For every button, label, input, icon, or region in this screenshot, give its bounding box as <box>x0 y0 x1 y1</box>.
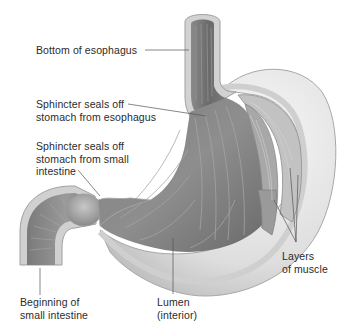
stomach-diagram: Bottom of esophagus Sphincter seals off … <box>0 0 343 325</box>
label-beginning-small-intestine: Beginning of small intestine <box>20 296 88 321</box>
label-lumen: Lumen (interior) <box>157 296 197 321</box>
pyloric-sphincter <box>66 194 102 226</box>
label-sphincter-small-intestine: Sphincter seals off stomach from small i… <box>36 140 129 178</box>
label-layers-of-muscle: Layers of muscle <box>282 250 328 275</box>
label-bottom-of-esophagus: Bottom of esophagus <box>36 44 137 57</box>
label-sphincter-esophagus: Sphincter seals off stomach from esophag… <box>36 98 156 123</box>
